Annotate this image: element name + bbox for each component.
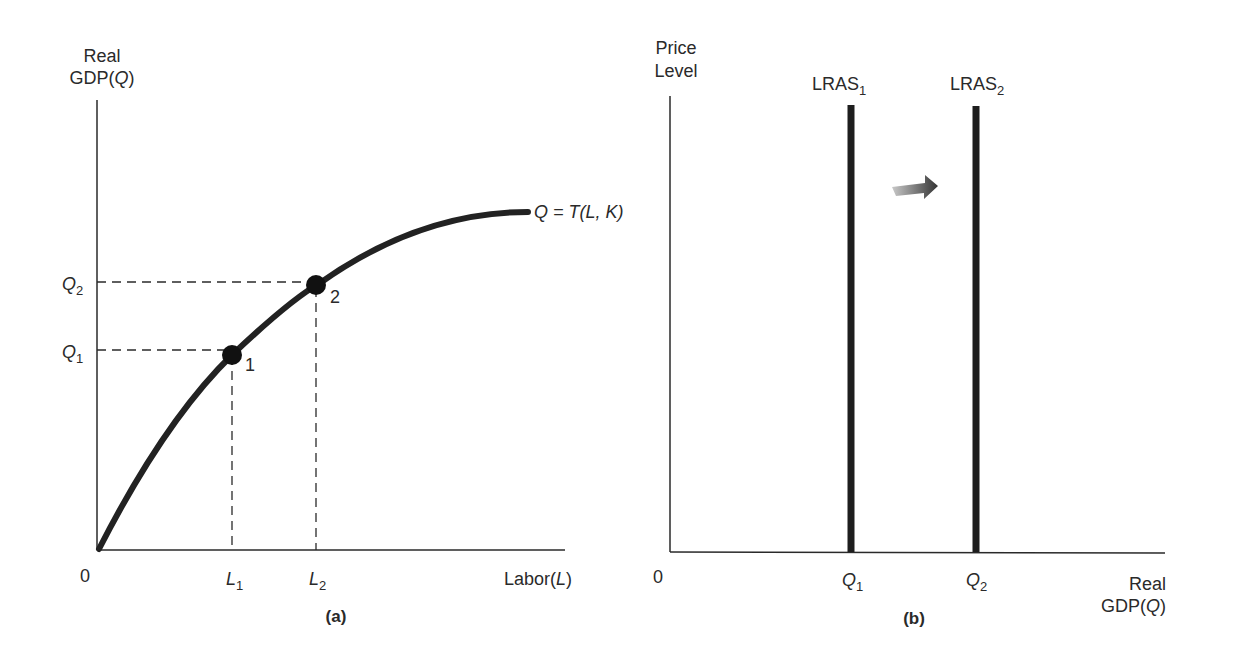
production-function-curve bbox=[99, 212, 528, 549]
guide-lines-a bbox=[97, 282, 316, 550]
lras1-label: LRAS1 bbox=[812, 74, 866, 98]
y-axis-label-b-line1: Price bbox=[655, 38, 696, 58]
panel-b: Price Level LRAS1 LRAS2 0 Q1 Q2 Real GDP… bbox=[653, 38, 1166, 628]
tick-l1: L1 bbox=[226, 569, 243, 593]
curve-label: Q = T(L, K) bbox=[534, 202, 624, 222]
point-1 bbox=[222, 345, 242, 365]
tick-q2-b: Q2 bbox=[966, 570, 987, 594]
caption-a: (a) bbox=[326, 607, 347, 626]
x-axis-b bbox=[670, 552, 1165, 553]
tick-q1-b: Q1 bbox=[842, 570, 863, 594]
y-axis-label-a-line1: Real bbox=[83, 46, 120, 66]
panel-a: Real GDP(Q) 1 2 Q = T(L, K) Q2 Q1 0 L1 L… bbox=[62, 46, 624, 626]
point-2 bbox=[306, 275, 326, 295]
point-2-label: 2 bbox=[330, 287, 340, 307]
shift-right-arrow-icon bbox=[892, 175, 938, 199]
lras2-label: LRAS2 bbox=[950, 74, 1004, 98]
figure: Real GDP(Q) 1 2 Q = T(L, K) Q2 Q1 0 L1 L… bbox=[0, 0, 1236, 661]
x-axis-label-b-line2: GDP(Q) bbox=[1101, 596, 1166, 616]
tick-q1-a: Q1 bbox=[62, 342, 83, 366]
x-axis-label-b-line1: Real bbox=[1129, 574, 1166, 594]
x-axis-label-a: Labor(L) bbox=[504, 569, 572, 589]
y-axis-label-a-line2: GDP(Q) bbox=[69, 68, 134, 88]
y-axis-label-b-line2: Level bbox=[654, 61, 697, 81]
origin-a: 0 bbox=[80, 566, 90, 586]
tick-l2: L2 bbox=[309, 569, 326, 593]
caption-b: (b) bbox=[903, 609, 925, 628]
point-1-label: 1 bbox=[245, 355, 255, 375]
tick-q2-a: Q2 bbox=[62, 274, 83, 298]
origin-b: 0 bbox=[653, 567, 663, 587]
